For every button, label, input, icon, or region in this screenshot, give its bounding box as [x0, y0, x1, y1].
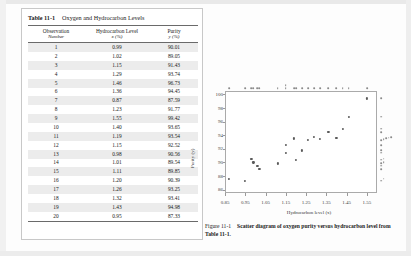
data-table-block: Table 11-1Oxygen and Hydrocarbon Levels …: [21, 8, 203, 240]
x-tick-mark: [245, 193, 246, 196]
table-row: 70.8787.59: [28, 96, 198, 105]
right-marginal-dot: [383, 161, 385, 163]
table-row: 181.3293.41: [28, 194, 198, 203]
top-marginal-dot: [295, 87, 297, 89]
x-tick-label: 1.55: [357, 200, 377, 205]
x-axis-ticks: 0.850.951.051.151.251.351.451.55: [225, 196, 377, 206]
cell-hydrocarbon: 1.43: [84, 203, 150, 212]
right-marginal-dot: [380, 159, 382, 161]
cell-hydrocarbon: 1.29: [84, 70, 150, 79]
cell-hydrocarbon: 0.95: [84, 212, 150, 221]
table-row: 161.2090.39: [28, 176, 198, 185]
cell-observation: 17: [28, 185, 84, 194]
cell-purity: 89.05: [150, 52, 198, 61]
column-header-observation-line1: Observation: [43, 28, 69, 34]
cell-observation: 4: [28, 70, 84, 79]
right-marginal-dotplot: [379, 91, 401, 193]
cell-purity: 91.77: [150, 105, 198, 114]
scatter-plot: Purity (y) 86889092949698100 0.850.951.0…: [203, 60, 403, 220]
cell-observation: 12: [28, 141, 84, 150]
y-axis-label: Purity (y): [190, 149, 195, 168]
cell-hydrocarbon: 1.32: [84, 194, 150, 203]
top-marginal-dot: [342, 87, 344, 89]
x-tick-label: 1.15: [276, 200, 296, 205]
cell-hydrocarbon: 1.40: [84, 123, 150, 132]
table-row: 101.4093.65: [28, 123, 198, 132]
x-tick-mark: [326, 193, 327, 196]
column-header-purity-line2: y (%): [150, 34, 198, 41]
x-axis-label: Hydrocarbon level (x): [239, 210, 379, 215]
x-tick-label: 1.45: [337, 200, 357, 205]
figure-number: Figure 11-1: [205, 223, 231, 229]
textbook-page: Table 11-1Oxygen and Hydrocarbon Levels …: [0, 0, 411, 256]
x-tick-mark: [266, 193, 267, 196]
cell-purity: 87.33: [150, 212, 198, 221]
column-header-observation: Observation Number: [28, 26, 84, 43]
right-marginal-dot: [380, 152, 382, 154]
table-row: 51.4696.73: [28, 79, 198, 88]
right-marginal-dot: [391, 136, 393, 138]
table-row: 10.9990.01: [28, 43, 198, 52]
x-tick-label: 1.25: [296, 200, 316, 205]
y-tick-label: 98: [205, 106, 223, 111]
right-marginal-dot: [380, 168, 382, 170]
cell-purity: 93.65: [150, 123, 198, 132]
table-row: 111.1993.54: [28, 132, 198, 141]
table-row: 121.1592.52: [28, 141, 198, 150]
y-tick-label: 100: [205, 92, 223, 97]
cell-observation: 11: [28, 132, 84, 141]
right-marginal-dot: [380, 131, 382, 133]
figure-caption: Figure 11-1Scatter diagram of oxygen pur…: [205, 222, 403, 238]
y-tick-label: 96: [205, 119, 223, 124]
cell-hydrocarbon: 0.87: [84, 96, 150, 105]
top-marginal-dot: [253, 87, 255, 89]
top-marginal-dot: [328, 87, 330, 89]
table-row: 61.3694.45: [28, 88, 198, 97]
top-marginal-dot: [259, 87, 261, 89]
plot-frame: [225, 91, 377, 193]
table-caption: Table 11-1Oxygen and Hydrocarbon Levels: [28, 13, 198, 22]
column-header-hydrocarbon-line2: x (%): [84, 34, 150, 41]
right-marginal-dot: [380, 116, 382, 118]
right-marginal-dot: [380, 128, 382, 130]
cell-observation: 20: [28, 212, 84, 221]
cell-observation: 16: [28, 176, 84, 185]
cell-observation: 3: [28, 61, 84, 70]
y-axis-ticks: 86889092949698100: [203, 91, 223, 193]
right-marginal-dot: [380, 144, 382, 146]
x-tick-mark: [286, 193, 287, 196]
cell-observation: 7: [28, 96, 84, 105]
scan-edge-right: [406, 0, 411, 256]
top-marginal-dot: [336, 87, 338, 89]
cell-purity: 94.98: [150, 203, 198, 212]
cell-purity: 93.74: [150, 70, 198, 79]
cell-purity: 93.54: [150, 132, 198, 141]
top-marginal-dot: [301, 87, 303, 89]
table-head: Observation Number Hydrocarbon Level x (…: [28, 26, 198, 43]
table-row: 171.2693.25: [28, 185, 198, 194]
y-tick-label: 94: [205, 133, 223, 138]
cell-observation: 13: [28, 150, 84, 159]
cell-observation: 8: [28, 105, 84, 114]
cell-hydrocarbon: 1.20: [84, 176, 150, 185]
right-marginal-dot: [380, 98, 382, 100]
cell-observation: 1: [28, 43, 84, 52]
top-marginal-dot: [285, 87, 287, 89]
table-row: 141.0189.54: [28, 159, 198, 168]
cell-purity: 96.73: [150, 79, 198, 88]
top-marginal-dot: [313, 87, 315, 89]
x-tick-label: 0.85: [215, 200, 235, 205]
cell-hydrocarbon: 1.11: [84, 167, 150, 176]
right-marginal-dot: [380, 150, 382, 152]
x-tick-mark: [367, 193, 368, 196]
top-marginal-dot: [285, 85, 287, 87]
table-title: Oxygen and Hydrocarbon Levels: [62, 14, 144, 21]
column-header-hydrocarbon-line1: Hydrocarbon Level: [96, 28, 138, 34]
scan-edge-top: [0, 0, 411, 4]
cell-hydrocarbon: 1.19: [84, 132, 150, 141]
figure-block: Purity (y) 86889092949698100 0.850.951.0…: [203, 60, 403, 250]
table-row: 130.9890.56: [28, 150, 198, 159]
top-marginal-dotplot: [225, 68, 377, 90]
table-row: 151.1189.85: [28, 167, 198, 176]
cell-hydrocarbon: 1.36: [84, 88, 150, 97]
